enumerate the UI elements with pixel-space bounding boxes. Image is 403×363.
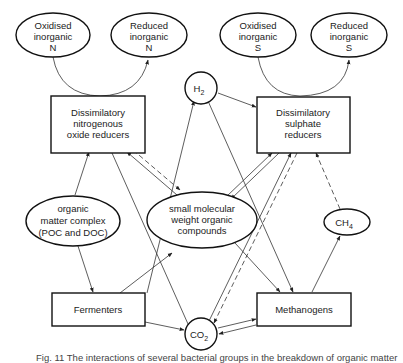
svg-text:weight organic: weight organic	[170, 214, 233, 225]
svg-text:Fermenters: Fermenters	[74, 304, 123, 315]
edge-oxidised-n-to-reduced-n	[53, 57, 148, 96]
node-small-molecular-weight-organic-compounds: small molecular weight organic compounds	[147, 192, 257, 248]
svg-text:Dissimilatory: Dissimilatory	[71, 107, 125, 118]
node-methanogens: Methanogens	[257, 293, 351, 326]
edge-methanogens-to-ch4	[312, 236, 340, 292]
edge-small-to-methanogens	[235, 243, 280, 292]
svg-text:Oxidised: Oxidised	[240, 20, 277, 31]
svg-text:inorganic: inorganic	[239, 31, 278, 42]
svg-text:N: N	[146, 42, 153, 53]
svg-text:inorganic: inorganic	[130, 31, 169, 42]
svg-text:nitrogenous: nitrogenous	[73, 118, 123, 129]
svg-text:(POC and DOC): (POC and DOC)	[38, 227, 107, 238]
svg-text:N: N	[50, 42, 57, 53]
svg-text:Reduced: Reduced	[330, 20, 368, 31]
svg-text:Dissimilatory: Dissimilatory	[276, 107, 330, 118]
svg-text:sulphate: sulphate	[285, 118, 321, 129]
edge-fermenters-to-co2	[145, 322, 184, 330]
node-dissimilatory-nitrogenous-oxide-reducers: Dissimilatory nitrogenous oxide reducers	[51, 96, 145, 153]
node-oxidised-inorganic-s: Oxidised inorganic S	[220, 13, 296, 57]
svg-text:organic: organic	[57, 203, 88, 214]
edge-h2-to-sulphate-reducers	[218, 93, 256, 107]
node-oxidised-inorganic-n: Oxidised inorganic N	[16, 13, 90, 57]
svg-text:matter complex: matter complex	[41, 215, 106, 226]
svg-text:Oxidised: Oxidised	[35, 20, 72, 31]
edge-small-to-nitro	[127, 152, 177, 195]
node-reduced-inorganic-n: Reduced inorganic N	[111, 13, 187, 57]
svg-text:Methanogens: Methanogens	[275, 304, 333, 315]
edge-organic-to-nitro	[75, 152, 89, 195]
figure-caption: Fig. 11 The interactions of several bact…	[36, 352, 397, 363]
svg-text:small molecular: small molecular	[169, 203, 235, 214]
node-reduced-inorganic-s: Reduced inorganic S	[311, 13, 387, 57]
node-ch4: CH4	[324, 209, 370, 235]
node-co2: CO2	[185, 318, 217, 350]
edge-small-to-sulphate	[226, 153, 272, 197]
node-organic-matter-complex: organic matter complex (POC and DOC)	[26, 196, 120, 246]
node-fermenters: Fermenters	[52, 293, 145, 326]
edge-fermenters-to-small	[120, 253, 172, 293]
edge-oxidised-s-to-reduced-s	[258, 57, 349, 96]
node-h2: H2	[185, 72, 217, 104]
svg-text:S: S	[255, 42, 261, 53]
edge-ch4-to-sulphate-dashed	[316, 153, 340, 209]
svg-text:Reduced: Reduced	[130, 20, 168, 31]
edge-organic-to-fermenters	[77, 243, 93, 292]
svg-text:S: S	[346, 42, 352, 53]
svg-text:oxide reducers: oxide reducers	[67, 129, 130, 140]
bacterial-interaction-diagram: Oxidised inorganic N Reduced inorganic N…	[0, 0, 403, 363]
edge-nitro-to-small-dashed	[133, 150, 180, 190]
svg-text:reducers: reducers	[285, 129, 322, 140]
svg-text:compounds: compounds	[177, 225, 226, 236]
svg-text:inorganic: inorganic	[34, 31, 73, 42]
node-dissimilatory-sulphate-reducers: Dissimilatory sulphate reducers	[257, 97, 350, 153]
svg-text:inorganic: inorganic	[330, 31, 369, 42]
